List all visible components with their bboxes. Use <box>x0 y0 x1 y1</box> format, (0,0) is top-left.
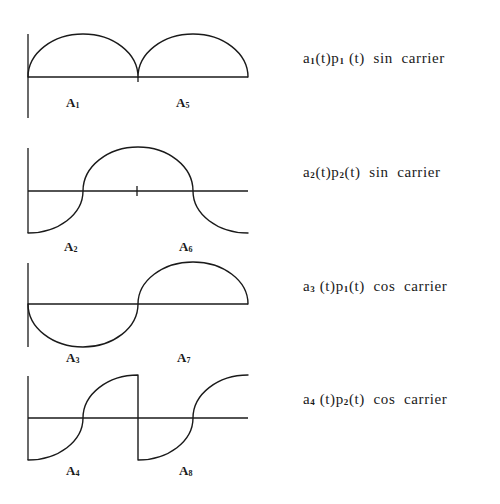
panel-1-area-label-left: A1 <box>66 95 79 110</box>
panel-4-area-label-right: A8 <box>179 463 192 478</box>
panel-3: A3 A7 a3 (t)p1(t) cos carrier <box>28 262 447 365</box>
panel-4-area-label-left: A4 <box>66 463 79 478</box>
panel-4-caption: a4 (t)p2(t) cos carrier <box>303 391 447 408</box>
panel-1-area-label-right: A5 <box>176 95 189 110</box>
panel-3-area-label-right: A7 <box>177 350 190 365</box>
panel-1-caption: a1(t)p1 (t) sin carrier <box>303 50 445 67</box>
panel-2: A2 A6 a2(t)p2(t) sin carrier <box>28 147 441 254</box>
panel-2-area-label-right: A6 <box>179 239 192 254</box>
panel-2-caption: a2(t)p2(t) sin carrier <box>303 164 441 181</box>
panel-4: A4 A8 a4 (t)p2(t) cos carrier <box>28 375 447 478</box>
panel-1: A1 A5 a1(t)p1 (t) sin carrier <box>28 34 445 118</box>
panel-1-waveform <box>28 34 248 77</box>
panel-2-area-label-left: A2 <box>64 239 77 254</box>
panel-3-caption: a3 (t)p1(t) cos carrier <box>303 278 447 295</box>
panel-2-waveform <box>28 147 248 233</box>
waveform-figure: A1 A5 a1(t)p1 (t) sin carrier A2 A6 a2(t… <box>0 0 500 504</box>
panel-3-area-label-left: A3 <box>66 350 79 365</box>
